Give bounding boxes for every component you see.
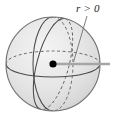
sphere-figure: r > 0 [0, 0, 115, 119]
radius-label: r > 0 [76, 3, 100, 14]
center-dot [49, 60, 56, 67]
sphere-illustration [0, 0, 115, 119]
